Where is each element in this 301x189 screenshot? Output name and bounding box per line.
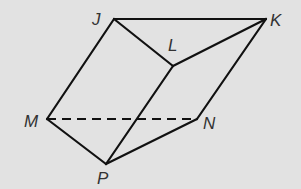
edge-lk [173,19,266,66]
vertex-label-m: M [24,113,38,130]
edge-lp [106,66,173,164]
vertex-label-n: N [203,115,215,132]
edge-jl [114,19,173,66]
edge-kn [197,19,266,119]
prism-figure [0,0,301,189]
edge-jm [47,19,114,119]
vertex-label-p: P [97,170,108,187]
edge-mp [47,119,106,164]
vertex-label-k: K [270,12,281,29]
edge-pn [106,119,197,164]
vertex-label-l: L [168,37,177,54]
vertex-label-j: J [92,11,101,28]
